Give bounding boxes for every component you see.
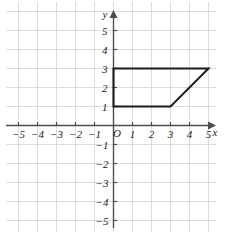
y-tick-label: −2 (96, 158, 109, 170)
x-tick-label: 5 (206, 128, 212, 140)
coordinate-plane-figure: −5−4−3−2−11234554321−1−2−3−4−5 x y O (0, 0, 225, 232)
y-tick-label: −4 (96, 196, 109, 208)
grid-lines (6, 2, 216, 232)
x-tick-label: −4 (31, 128, 44, 140)
y-tick-label: −5 (96, 215, 109, 227)
y-tick-label: 4 (102, 44, 108, 56)
y-tick-label: −3 (96, 177, 109, 189)
origin-label: O (113, 127, 121, 139)
coordinate-plane-svg: −5−4−3−2−11234554321−1−2−3−4−5 x y O (0, 0, 225, 232)
y-tick-label: −1 (96, 139, 109, 151)
x-tick-label: −2 (69, 128, 82, 140)
y-axis-label: y (102, 8, 108, 20)
x-tick-label: −3 (50, 128, 63, 140)
x-tick-label: −5 (12, 128, 25, 140)
y-tick-label: 2 (102, 82, 108, 94)
y-tick-label: 5 (102, 25, 108, 37)
x-tick-label: 1 (130, 128, 136, 140)
x-tick-label: 2 (149, 128, 155, 140)
y-tick-label: 3 (101, 63, 108, 75)
x-tick-label: 3 (167, 128, 174, 140)
y-tick-label: 1 (102, 101, 108, 113)
x-tick-label: 4 (187, 128, 193, 140)
x-axis-label: x (212, 126, 218, 138)
